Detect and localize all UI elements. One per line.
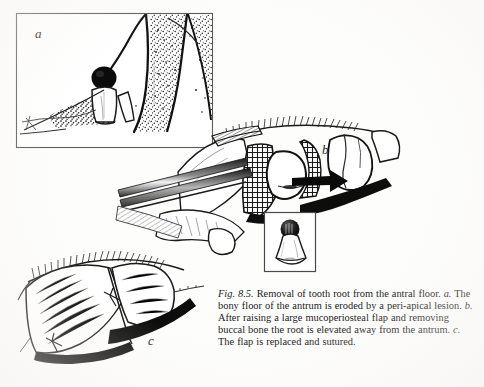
caption-title: Removal of tooth root from the antral fl…: [257, 288, 441, 299]
panel-label-b: b: [322, 142, 329, 158]
direction-arrow: [292, 170, 348, 192]
caption-part-c-text: The flap is replaced and sutured.: [218, 336, 356, 347]
figure-page: a b c Fig. 8.5. Removal of tooth root fr…: [0, 0, 484, 387]
panel-b-artwork: [116, 116, 400, 255]
panel-c-artwork: [18, 251, 204, 364]
panel-label-c: c: [148, 333, 154, 349]
inset-root-box: [265, 213, 316, 272]
caption-part-b-text: After raising a large mucoperiosteal fla…: [218, 312, 450, 335]
caption-part-c-label: c.: [453, 324, 460, 335]
panel-label-a: a: [35, 26, 42, 42]
caption-part-b-label: b.: [465, 300, 473, 311]
panel-a-artwork: [17, 14, 215, 148]
figure-caption: Fig. 8.5. Removal of tooth root from the…: [218, 288, 474, 348]
caption-figure-number: Fig. 8.5.: [218, 288, 254, 299]
caption-part-a-label: a.: [444, 288, 452, 299]
